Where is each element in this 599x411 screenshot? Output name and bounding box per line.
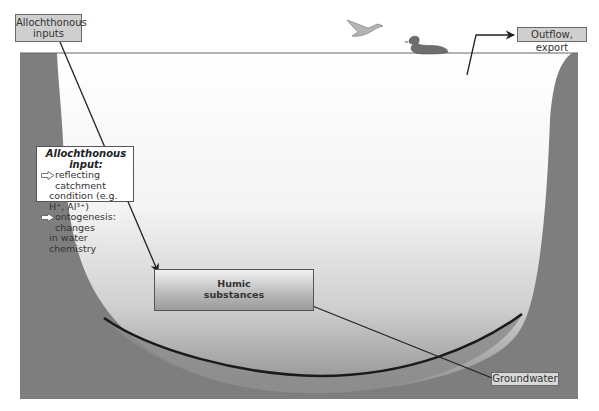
allochthonous-input-info-box: Allochthonous input: reflecting catchmen… [36,146,134,202]
allochthonous-inputs-line1: Allochthonous [16,17,81,28]
allochthonous-inputs-line2: inputs [16,28,81,39]
info-box-title: Allochthonous input: [41,149,131,170]
hollow-arrow-icon [41,171,55,180]
info-item-catchment: reflecting catchment [41,170,131,191]
hollow-arrow-icon [41,213,55,222]
info-item-catchment-line1: reflecting catchment [55,170,131,191]
info-item-ontogenesis: ontogenesis: changes [41,212,131,233]
humic-line1: Humic [155,278,313,289]
info-item-ontogenesis-line2: in water chemistry [41,233,131,254]
flying-bird-icon [347,20,383,36]
swimming-duck-icon [404,36,448,54]
info-item-catchment-line2: condition (e.g. H⁺, Al³⁺) [41,191,131,212]
humic-substances-box: Humic substances [154,269,314,311]
outflow-export-label: Outflow, export [517,27,587,42]
humic-line2: substances [155,289,313,300]
groundwater-label: Groundwater [491,372,559,386]
allochthonous-inputs-label: Allochthonous inputs [15,14,82,42]
info-item-ontogenesis-line1: ontogenesis: changes [55,212,131,233]
